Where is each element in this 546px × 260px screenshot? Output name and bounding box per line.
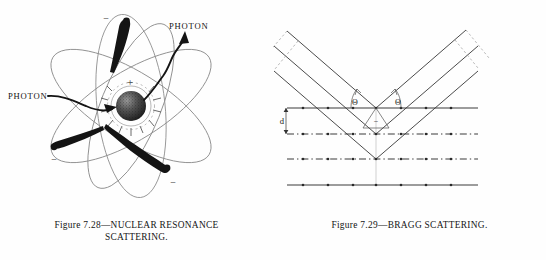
nucleus-plus-label: + [127, 76, 133, 88]
angle-left-label: Θ [352, 98, 358, 107]
incident-ray-group [274, 31, 376, 159]
photon-in-label: PHOTON [8, 91, 48, 101]
angle-right-label: Θ [395, 98, 401, 107]
incident-wavefront-2 [275, 41, 298, 69]
nuclear-resonance-scattering-drawing: − − − − + PHOTON PHOTON [0, 0, 273, 215]
path-difference-label: − [374, 117, 379, 126]
incident-ray-1 [287, 31, 376, 108]
incident-ray-2 [274, 46, 376, 134]
figure-7-29-caption: Figure 7.29—BRAGG SCATTERING. [273, 219, 546, 231]
figure-7-29-panel: − Θ Θ d Figure 7.29—BRAGG [273, 0, 546, 260]
electron-minus-lower-right: − [170, 177, 176, 188]
reflected-ray-group [376, 30, 478, 159]
reflected-wavefront-group [455, 30, 489, 68]
reflected-wavefront-2 [455, 40, 478, 68]
bragg-scattering-drawing: − Θ Θ d [273, 0, 546, 215]
incident-ray-3 [274, 71, 376, 159]
caption-line-1: Figure 7.28—NUCLEAR RESONANCE [0, 219, 273, 231]
reflected-ray-3 [376, 71, 478, 159]
d-spacing-label: d [280, 116, 285, 126]
nucleus-stipple-overlay [116, 91, 146, 121]
photon-out-label: PHOTON [169, 21, 209, 31]
incident-wavefront-1 [273, 31, 287, 59]
electron-lower-right [104, 124, 169, 173]
electron-minus-top: − [103, 13, 109, 24]
reflected-ray-2 [376, 46, 478, 134]
figure-7-28-panel: − − − − + PHOTON PHOTON Figure 7.28—NUCL… [0, 0, 273, 260]
caption-line-1: Figure 7.29—BRAGG SCATTERING. [273, 219, 546, 231]
caption-line-2: SCATTERING. [0, 231, 273, 243]
figure-page: − − − − + PHOTON PHOTON Figure 7.28—NUCL… [0, 0, 546, 260]
reflected-ray-1 [376, 30, 466, 108]
d-spacing-indicator [284, 108, 289, 134]
outgoing-photon-arrowhead [179, 31, 189, 44]
electron-group [51, 18, 186, 173]
figure-7-28-caption: Figure 7.28—NUCLEAR RESONANCE SCATTERING… [0, 219, 273, 243]
electron-minus-lower-left: − [51, 154, 57, 165]
incoming-photon-arrowhead [104, 104, 117, 113]
electron-lower-left [51, 126, 104, 149]
